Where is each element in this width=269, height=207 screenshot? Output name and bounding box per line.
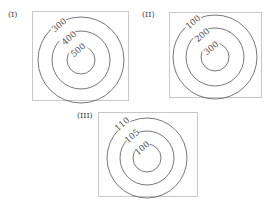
contour-lines: 300 400 500 100 200 300 110 105 100 xyxy=(0,0,269,207)
contour-label: 100 xyxy=(184,13,203,31)
contour-label: 300 xyxy=(50,16,69,34)
contour-label: 100 xyxy=(133,139,152,157)
contour-label: 110 xyxy=(113,115,132,133)
contour-label: 300 xyxy=(202,39,221,57)
